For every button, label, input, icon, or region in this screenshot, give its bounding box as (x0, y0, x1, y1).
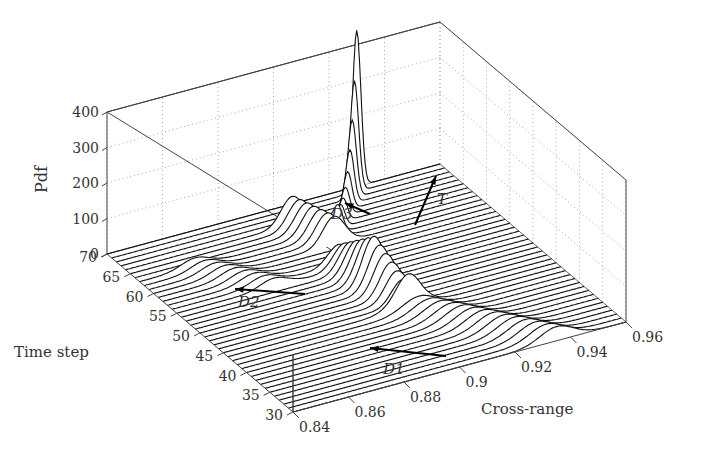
y-tick-label: 60 (126, 289, 144, 305)
x-tick-label: 0.96 (632, 329, 663, 345)
annotation-d3: D3 (331, 205, 353, 223)
y-tick-label: 35 (242, 387, 260, 403)
y-tick-label: 50 (172, 328, 190, 344)
x-tick (571, 337, 577, 343)
y-tick (148, 294, 154, 297)
x-tick (404, 382, 410, 388)
y-tick-label: 70 (79, 249, 97, 265)
x-tick-label: 0.9 (466, 374, 488, 390)
z-tick-label: 200 (72, 175, 99, 191)
grid-line (107, 93, 440, 183)
y-tick (241, 373, 247, 376)
y-tick (171, 313, 177, 316)
y-tick-label: 65 (102, 269, 120, 285)
x-tick-label: 0.92 (521, 359, 552, 375)
z-tick-label: 400 (72, 104, 99, 120)
x-tick (626, 322, 632, 328)
x-tick-label: 0.86 (355, 404, 386, 420)
y-tick-label: 45 (195, 348, 213, 364)
grid-line (440, 129, 626, 287)
axis-edge (440, 22, 626, 180)
y-tick (194, 333, 200, 336)
x-tick-label: 0.94 (577, 344, 608, 360)
x-axis-label: Cross-range (481, 400, 573, 418)
annotation-t: T (437, 190, 447, 208)
x-tick (293, 412, 299, 418)
grid-line (440, 93, 626, 251)
z-tick-label: 300 (72, 140, 99, 156)
y-tick (287, 412, 293, 415)
x-tick-label: 0.84 (299, 419, 330, 435)
x-tick (460, 367, 466, 373)
y-tick (217, 353, 223, 356)
y-axis-label: Time step (14, 343, 89, 361)
annotation-d2: D2 (238, 293, 260, 311)
z-tick (102, 148, 107, 151)
y-tick (264, 392, 270, 395)
x-tick (515, 352, 521, 358)
x-tick-label: 0.88 (410, 389, 441, 405)
y-tick-label: 40 (219, 368, 237, 384)
y-tick-label: 55 (149, 308, 167, 324)
grid-line (107, 58, 440, 148)
y-tick-label: 30 (265, 407, 283, 423)
z-tick (102, 219, 107, 222)
z-tick (102, 183, 107, 186)
annotation-d1: D1 (383, 360, 405, 378)
axis-edge (107, 22, 440, 112)
y-tick (101, 254, 107, 257)
z-tick-label: 100 (72, 211, 99, 227)
y-tick (124, 274, 130, 277)
z-axis-label: Pdf (32, 166, 51, 193)
x-tick (349, 397, 355, 403)
z-tick (102, 112, 107, 115)
waterfall-plot: 01002003004003035404550556065700.840.860… (0, 0, 702, 454)
grid-line (440, 58, 626, 216)
